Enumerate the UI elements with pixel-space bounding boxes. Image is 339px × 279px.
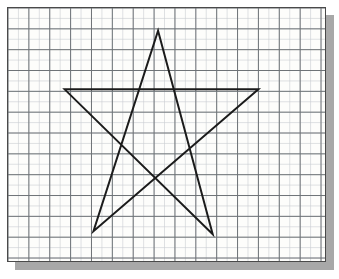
five-pointed-star-path	[65, 31, 259, 234]
star-drawing-layer	[8, 8, 325, 261]
graph-paper-sheet	[7, 7, 326, 262]
canvas-scene	[0, 0, 339, 279]
